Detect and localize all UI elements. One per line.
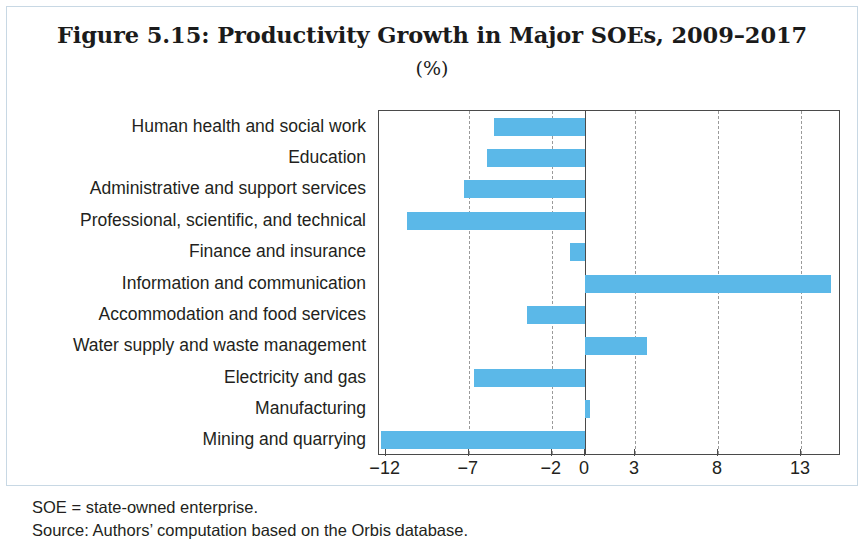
axis-tick-label: 13 xyxy=(790,458,810,479)
axis-tick-mark xyxy=(800,449,801,456)
category-label: Manufacturing xyxy=(255,398,366,418)
bar xyxy=(494,118,585,136)
axis-tick-label: 8 xyxy=(712,458,722,479)
category-label: Electricity and gas xyxy=(224,367,366,387)
axis-tick-mark xyxy=(717,449,718,456)
bar xyxy=(487,149,585,167)
bar xyxy=(474,369,585,387)
category-label: Water supply and waste management xyxy=(73,335,366,355)
category-label: Information and communication xyxy=(122,273,366,293)
category-label: Professional, scientific, and technical xyxy=(80,210,366,230)
axis-tick-mark xyxy=(584,449,585,456)
category-label: Finance and insurance xyxy=(189,241,366,261)
category-axis-labels: Human health and social workEducationAdm… xyxy=(10,110,372,455)
category-label: Administrative and support services xyxy=(90,178,366,198)
bar xyxy=(527,306,585,324)
value-axis-ticks: −12−7−203813 xyxy=(378,458,840,486)
plot-area xyxy=(378,110,840,455)
bar-layer xyxy=(379,111,839,454)
figure-note: Source: Authors’ computation based on th… xyxy=(32,519,832,542)
axis-tick-mark xyxy=(468,449,469,456)
axis-tick-label: −7 xyxy=(457,458,478,479)
axis-tick-mark xyxy=(385,449,386,456)
axis-tick-mark xyxy=(634,449,635,456)
bar xyxy=(585,275,831,293)
figure-notes: SOE = state-owned enterprise.Source: Aut… xyxy=(32,496,832,542)
bar xyxy=(585,337,646,355)
axis-tick-label: 0 xyxy=(579,458,589,479)
axis-tick-mark xyxy=(551,449,552,456)
figure-note: SOE = state-owned enterprise. xyxy=(32,496,832,519)
axis-tick-label: −12 xyxy=(369,458,400,479)
bar xyxy=(381,431,585,449)
title-block: Figure 5.15: Productivity Growth in Majo… xyxy=(0,22,864,79)
axis-tick-label: 3 xyxy=(629,458,639,479)
bar xyxy=(570,243,585,261)
category-label: Education xyxy=(288,147,366,167)
bar xyxy=(407,212,585,230)
axis-tick-label: −2 xyxy=(541,458,562,479)
bar xyxy=(585,400,590,418)
category-label: Accommodation and food services xyxy=(99,304,367,324)
figure-subtitle: (%) xyxy=(0,57,864,79)
category-label: Mining and quarrying xyxy=(203,429,366,449)
figure-container: Figure 5.15: Productivity Growth in Majo… xyxy=(0,0,864,559)
bar xyxy=(464,180,585,198)
figure-title: Figure 5.15: Productivity Growth in Majo… xyxy=(0,22,864,48)
category-label: Human health and social work xyxy=(132,116,366,136)
